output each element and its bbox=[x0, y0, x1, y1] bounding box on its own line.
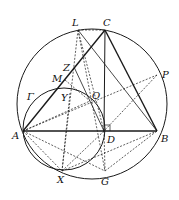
label-Y: Y bbox=[61, 92, 69, 103]
label-C: C bbox=[103, 17, 111, 28]
dash-PD bbox=[104, 75, 157, 131]
dash-AP bbox=[23, 75, 157, 131]
label-L: L bbox=[71, 17, 79, 28]
label-M: M bbox=[51, 73, 63, 84]
label-gamma: Γ bbox=[26, 91, 35, 102]
label-O: O bbox=[92, 90, 100, 101]
segment-CD bbox=[104, 30, 105, 131]
dash-YX bbox=[62, 93, 70, 171]
dash-AG bbox=[23, 131, 105, 171]
label-D: D bbox=[106, 134, 115, 145]
dash-LD bbox=[78, 30, 104, 131]
label-G: G bbox=[101, 176, 109, 187]
segment-CB bbox=[105, 30, 157, 131]
segment-AC bbox=[23, 30, 105, 131]
geometry-diagram: L C Z M P Γ Y O A D B X G bbox=[0, 0, 179, 200]
label-Z: Z bbox=[62, 62, 71, 73]
segment-LB bbox=[78, 30, 157, 131]
dash-AO bbox=[23, 101, 90, 131]
label-X: X bbox=[56, 174, 65, 185]
label-P: P bbox=[161, 69, 169, 80]
label-B: B bbox=[160, 133, 168, 144]
label-A: A bbox=[11, 130, 19, 141]
